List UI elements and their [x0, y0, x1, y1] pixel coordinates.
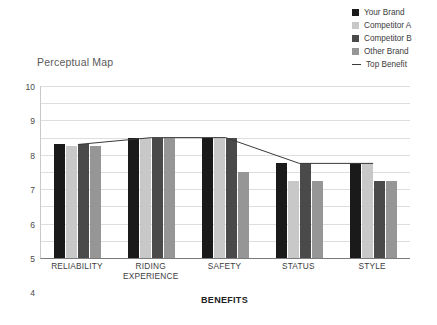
legend-line-marker	[352, 64, 361, 65]
legend-label: Your Brand	[364, 8, 405, 17]
bar-groups	[41, 86, 410, 258]
bar[interactable]	[128, 138, 139, 258]
category-label: SAFETY	[188, 261, 262, 281]
bar[interactable]	[54, 144, 65, 258]
legend-swatch	[352, 22, 359, 29]
y-axis-tick-label: 9	[30, 117, 35, 126]
bar[interactable]	[238, 172, 249, 258]
bar-group	[262, 86, 336, 258]
bar[interactable]	[288, 181, 299, 258]
bar[interactable]	[78, 144, 89, 258]
bar[interactable]	[164, 138, 175, 258]
x-axis-title: BENEFITS	[40, 295, 409, 305]
legend-item[interactable]: Top Benefit	[352, 60, 412, 69]
bar[interactable]	[152, 138, 163, 258]
y-axis-tick-label: 6	[30, 220, 35, 229]
plot-area: 109876543210	[40, 86, 410, 259]
category-label: STYLE	[335, 261, 409, 281]
perceptual-map-chart: Your BrandCompetitor ACompetitor BOther …	[0, 0, 437, 325]
category-axis-labels: RELIABILITYRIDING EXPERIENCESAFETYSTATUS…	[40, 261, 409, 281]
legend-item[interactable]: Competitor A	[352, 21, 412, 30]
legend-label: Other Brand	[364, 47, 409, 56]
bar[interactable]	[362, 163, 373, 258]
category-label: STATUS	[261, 261, 335, 281]
bar[interactable]	[374, 181, 385, 258]
bar[interactable]	[90, 146, 101, 258]
bar[interactable]	[226, 138, 237, 258]
bar[interactable]	[214, 138, 225, 258]
legend-item[interactable]: Other Brand	[352, 47, 412, 56]
chart-legend: Your BrandCompetitor ACompetitor BOther …	[352, 8, 412, 69]
y-axis-tick-label: 5	[30, 255, 35, 264]
y-axis-tick-label: 7	[30, 186, 35, 195]
bar[interactable]	[202, 138, 213, 258]
legend-swatch	[352, 35, 359, 42]
bar[interactable]	[350, 163, 361, 258]
y-axis-tick-label: 10	[26, 83, 35, 92]
bar[interactable]	[312, 181, 323, 258]
bar-group	[336, 86, 410, 258]
bar-group	[115, 86, 189, 258]
legend-label: Competitor A	[364, 21, 411, 30]
y-axis-tick-label: 4	[30, 289, 35, 298]
legend-label: Competitor B	[364, 34, 412, 43]
bar-group	[189, 86, 263, 258]
bar[interactable]	[300, 163, 311, 258]
y-axis-tick-label: 8	[30, 152, 35, 161]
category-label: RIDING EXPERIENCE	[114, 261, 188, 281]
chart-title: Perceptual Map	[37, 56, 113, 68]
legend-label: Top Benefit	[366, 60, 407, 69]
legend-swatch	[352, 48, 359, 55]
bar[interactable]	[66, 146, 77, 258]
bar[interactable]	[386, 181, 397, 258]
gridline: 0	[41, 258, 410, 259]
legend-item[interactable]: Your Brand	[352, 8, 412, 17]
legend-swatch	[352, 9, 359, 16]
bar-group	[41, 86, 115, 258]
category-label: RELIABILITY	[40, 261, 114, 281]
legend-item[interactable]: Competitor B	[352, 34, 412, 43]
bar[interactable]	[276, 163, 287, 258]
bar[interactable]	[140, 138, 151, 258]
